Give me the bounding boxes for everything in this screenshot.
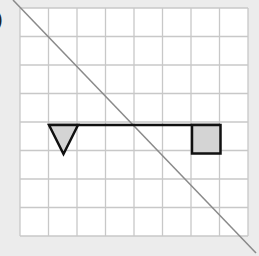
reflection-diagram xyxy=(0,0,259,256)
square-shape xyxy=(192,125,221,154)
